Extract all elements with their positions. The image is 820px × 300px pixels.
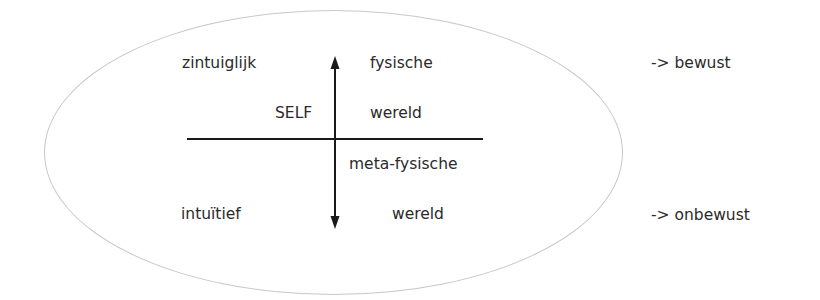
label-onbewust: -> onbewust	[651, 206, 750, 224]
label-intuitief: intuïtief	[181, 205, 241, 223]
label-meta-fysische: meta-fysische	[349, 155, 458, 173]
label-wereld-top: wereld	[370, 104, 422, 122]
label-wereld-bottom: wereld	[392, 205, 444, 223]
arrow-up-icon	[331, 56, 340, 69]
arrow-down-icon	[331, 216, 340, 229]
label-bewust: -> bewust	[651, 54, 731, 72]
label-self: SELF	[275, 104, 312, 122]
label-zintuiglijk: zintuiglijk	[182, 54, 256, 72]
axes	[0, 0, 820, 300]
label-fysische: fysische	[370, 54, 433, 72]
